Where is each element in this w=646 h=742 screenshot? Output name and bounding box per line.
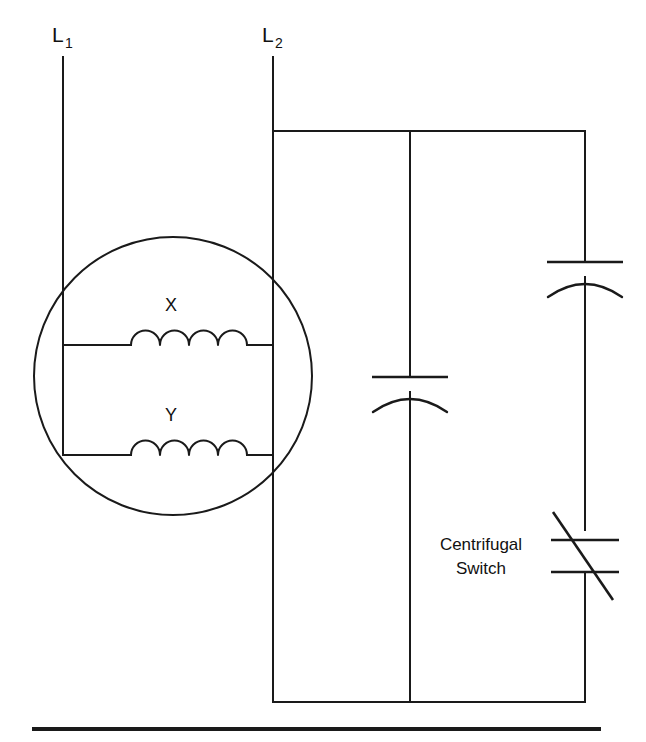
centrifugal-switch-label-line1: Centrifugal [440,535,522,554]
coil-icon [131,331,247,346]
winding-label-x: X [165,295,177,315]
diagram-canvas: L 1 L 2 X Y Centrifugal Switch [0,0,646,742]
terminal-label-l2-base: L [262,23,274,46]
terminal-label-l1-subscript: 1 [65,35,73,51]
coil-icon [131,441,247,456]
terminal-label-l1-base: L [52,23,64,46]
switch-icon-actuator-stroke [553,512,613,600]
terminal-label-l2-subscript: 2 [275,35,283,51]
winding-label-y: Y [165,405,177,425]
motor-circle-icon [34,237,312,515]
centrifugal-switch-label-line2: Switch [456,559,506,578]
circuit-schematic: L 1 L 2 X Y Centrifugal Switch [0,0,646,742]
terminal-label-l1: L 1 [52,23,73,51]
terminal-label-l2: L 2 [262,23,283,51]
